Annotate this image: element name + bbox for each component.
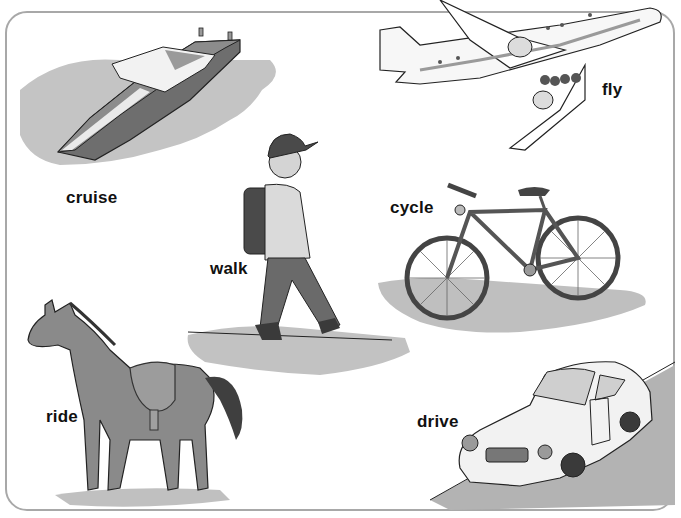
walking-boy-illustration bbox=[188, 134, 410, 375]
illustration-canvas bbox=[0, 0, 681, 518]
label-cruise: cruise bbox=[66, 188, 117, 208]
car-illustration bbox=[430, 362, 675, 510]
label-fly: fly bbox=[602, 80, 622, 100]
label-walk: walk bbox=[210, 259, 248, 279]
label-drive: drive bbox=[417, 412, 459, 432]
label-ride: ride bbox=[46, 407, 78, 427]
airplane-illustration bbox=[380, 0, 661, 150]
label-cycle: cycle bbox=[390, 198, 434, 218]
boat-illustration bbox=[20, 28, 276, 165]
